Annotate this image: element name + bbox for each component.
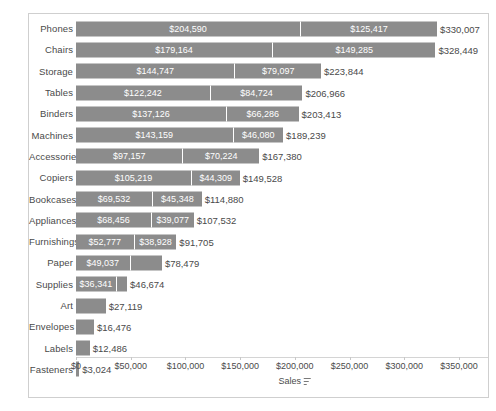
bar-segment[interactable]: $69,532 (76, 192, 152, 207)
total-value-label: $206,966 (302, 87, 345, 98)
segment-value-label: $122,242 (124, 88, 162, 97)
stacked-bar[interactable]: $105,219$44,309 (76, 170, 240, 185)
bar-row[interactable]: Envelopes$16,476 (29, 316, 488, 337)
stacked-bar[interactable]: $52,777$38,928 (76, 234, 176, 249)
bar-segment[interactable]: $204,590 (76, 21, 300, 36)
bar-row[interactable]: Storage$144,747$79,097$223,844 (29, 61, 488, 82)
bar-zone: $36,341$46,674 (76, 274, 488, 295)
segment-value-label: $45,348 (161, 195, 194, 204)
bar-row[interactable]: Furnishings$52,777$38,928$91,705 (29, 231, 488, 252)
bar-row[interactable]: Labels$12,486 (29, 337, 488, 358)
bar-segment[interactable]: $97,157 (76, 149, 182, 164)
segment-value-label: $144,747 (136, 67, 174, 76)
stacked-bar[interactable]: $204,590$125,417 (76, 21, 437, 36)
stacked-bar[interactable]: $68,456$39,077 (76, 213, 194, 228)
bar-row[interactable]: Paper$49,037$78,479 (29, 252, 488, 273)
bar-segment[interactable]: $122,242 (76, 85, 210, 100)
total-value-label: $107,532 (194, 215, 237, 226)
stacked-bar[interactable]: $36,341 (76, 277, 127, 292)
bar-segment[interactable]: $44,309 (191, 170, 239, 185)
bar-segment[interactable]: $66,286 (226, 106, 299, 121)
bar-row[interactable]: Art$27,119 (29, 295, 488, 316)
total-value-label: $330,007 (437, 23, 480, 34)
bar-row[interactable]: Accessories$97,157$70,224$167,380 (29, 146, 488, 167)
bar-segment[interactable] (116, 277, 127, 292)
segment-value-label: $143,159 (136, 131, 174, 140)
bar-segment[interactable]: $36,341 (76, 277, 116, 292)
bar-row[interactable]: Chairs$179,164$149,285$328,449 (29, 39, 488, 60)
bar-segment[interactable]: $137,126 (76, 106, 226, 121)
stacked-bar[interactable] (76, 341, 90, 356)
bar-segment[interactable]: $45,348 (152, 192, 202, 207)
bar-row[interactable]: Machines$143,159$46,080$189,239 (29, 124, 488, 145)
bar-segment[interactable] (76, 341, 90, 356)
axis-line (76, 357, 488, 358)
stacked-bar[interactable]: $69,532$45,348 (76, 192, 202, 207)
bar-segment[interactable]: $79,097 (234, 64, 321, 79)
bar-zone: $105,219$44,309$149,528 (76, 167, 488, 188)
axis-tick-label: $350,000 (440, 361, 478, 371)
segment-value-label: $39,077 (157, 216, 190, 225)
bar-segment[interactable]: $105,219 (76, 170, 191, 185)
total-value-label: $78,479 (162, 257, 199, 268)
bar-segment[interactable]: $52,777 (76, 234, 134, 249)
segment-value-label: $97,157 (113, 152, 146, 161)
bar-segment[interactable]: $70,224 (182, 149, 259, 164)
stacked-bar[interactable]: $97,157$70,224 (76, 149, 259, 164)
stacked-bar[interactable]: $137,126$66,286 (76, 106, 299, 121)
segment-value-label: $179,164 (155, 45, 193, 54)
bar-segment[interactable]: $68,456 (76, 213, 151, 228)
segment-value-label: $204,590 (169, 24, 207, 33)
bar-row[interactable]: Appliances$68,456$39,077$107,532 (29, 210, 488, 231)
bar-segment[interactable]: $125,417 (300, 21, 437, 36)
bar-segment[interactable]: $39,077 (151, 213, 194, 228)
axis-tick-mark (131, 357, 132, 360)
bar-zone: $52,777$38,928$91,705 (76, 231, 488, 252)
bar-zone: $137,126$66,286$203,413 (76, 103, 488, 124)
bar-row[interactable]: Copiers$105,219$44,309$149,528 (29, 167, 488, 188)
bar-segment[interactable]: $143,159 (76, 128, 233, 143)
axis-tick-mark (76, 357, 77, 360)
stacked-bar[interactable]: $122,242$84,724 (76, 85, 302, 100)
bar-segment[interactable]: $144,747 (76, 64, 234, 79)
segment-value-label: $46,080 (242, 131, 275, 140)
axis-tick-label: $50,000 (114, 361, 147, 371)
total-value-label: $203,413 (299, 108, 342, 119)
category-label: Envelopes (29, 321, 73, 332)
plot-area[interactable]: Phones$204,590$125,417$330,007Chairs$179… (29, 14, 488, 397)
bar-zone: $12,486 (76, 337, 488, 358)
stacked-bar[interactable]: $49,037 (76, 255, 162, 270)
bar-segment[interactable]: $149,285 (272, 42, 435, 57)
bar-segment[interactable] (130, 255, 162, 270)
bar-segment[interactable]: $179,164 (76, 42, 272, 57)
bar-segment[interactable]: $84,724 (210, 85, 303, 100)
axis-tick-mark (404, 357, 405, 360)
stacked-bar[interactable]: $144,747$79,097 (76, 64, 321, 79)
sort-descending-icon[interactable] (304, 377, 311, 385)
bar-row[interactable]: Phones$204,590$125,417$330,007 (29, 18, 488, 39)
bar-segment[interactable]: $38,928 (134, 234, 177, 249)
stacked-bar[interactable]: $179,164$149,285 (76, 42, 435, 57)
bar-zone: $68,456$39,077$107,532 (76, 210, 488, 231)
total-value-label: $167,380 (259, 151, 302, 162)
axis-tick-mark (295, 357, 296, 360)
category-label: Chairs (29, 44, 73, 55)
bar-segment[interactable] (76, 319, 94, 334)
segment-value-label: $79,097 (262, 67, 295, 76)
stacked-bar[interactable]: $143,159$46,080 (76, 128, 283, 143)
bar-row[interactable]: Binders$137,126$66,286$203,413 (29, 103, 488, 124)
bar-rows: Phones$204,590$125,417$330,007Chairs$179… (29, 18, 488, 380)
stacked-bar[interactable] (76, 319, 94, 334)
bar-segment[interactable] (76, 298, 106, 313)
bar-row[interactable]: Bookcases$69,532$45,348$114,880 (29, 188, 488, 209)
axis-tick-label: $150,000 (221, 361, 259, 371)
stacked-bar[interactable] (76, 298, 106, 313)
bar-row[interactable]: Supplies$36,341$46,674 (29, 274, 488, 295)
bar-row[interactable]: Tables$122,242$84,724$206,966 (29, 82, 488, 103)
bar-segment[interactable]: $46,080 (233, 128, 283, 143)
segment-value-label: $125,417 (350, 24, 388, 33)
segment-value-label: $149,285 (335, 45, 373, 54)
segment-value-label: $36,341 (80, 280, 113, 289)
axis-title[interactable]: Sales (279, 376, 312, 386)
bar-segment[interactable]: $49,037 (76, 255, 130, 270)
